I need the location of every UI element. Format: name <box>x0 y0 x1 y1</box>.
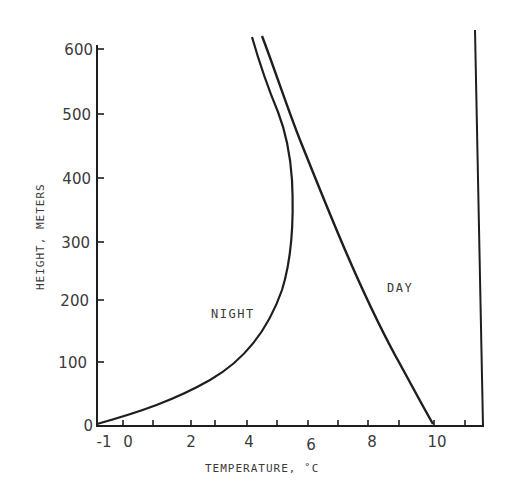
y-tick-label: 300 <box>61 234 90 252</box>
right-boundary-line <box>475 30 483 426</box>
x-tick-label: 8 <box>367 433 377 451</box>
y-tick-label: 0 <box>83 417 93 435</box>
y-tick-label: 600 <box>64 41 93 59</box>
x-tick-label: 0 <box>123 433 133 451</box>
y-tick-label: 200 <box>60 292 89 310</box>
y-axis-title: HEIGHT, METERS <box>34 183 47 290</box>
x-tick-label: 4 <box>244 433 254 451</box>
y-tick-label: 500 <box>62 106 91 124</box>
y-tick-label: 400 <box>62 170 91 188</box>
day-label: DAY <box>387 281 413 295</box>
x-tick-label: 6 <box>306 436 316 454</box>
x-tick-label: -1 <box>97 433 112 451</box>
day-curve <box>262 36 433 424</box>
x-tick-label: 2 <box>186 433 196 451</box>
temperature-height-chart: 600 500 400 300 200 100 0 -1 0 2 4 6 8 1… <box>0 0 508 499</box>
night-label: NIGHT <box>211 307 255 321</box>
y-tick-label: 100 <box>58 354 87 372</box>
y-tick-labels: 600 500 400 300 200 100 0 <box>58 41 93 435</box>
x-axis-title: TEMPERATURE, ˚C <box>205 462 319 475</box>
x-tick-label: 10 <box>427 433 446 451</box>
night-curve <box>97 37 293 424</box>
x-tick-labels: -1 0 2 4 6 8 10 <box>97 433 447 454</box>
y-ticks <box>97 49 104 362</box>
